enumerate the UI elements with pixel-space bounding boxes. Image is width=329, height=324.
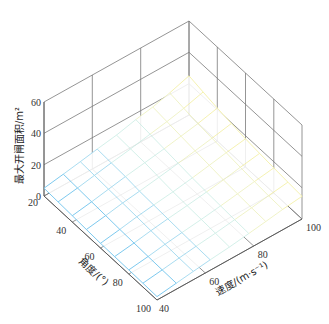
z-axis-label: 最大开闸面积/m² [13,107,25,184]
x-tick-label: 20 [28,197,38,208]
y-tick-label: 100 [306,222,321,233]
z-tick-label: 20 [31,160,41,171]
x-tick-label: 40 [56,225,66,236]
x-tick-label: 100 [136,303,151,314]
z-tick-label: 40 [31,128,41,139]
x-tick-label: 80 [113,277,123,288]
z-tick-label: 60 [31,97,41,108]
surface-chart: 020406020406080100406080100 最大开闸面积/m² 角度… [0,0,329,324]
y-tick-label: 80 [258,249,268,260]
y-tick-label: 40 [159,303,169,314]
